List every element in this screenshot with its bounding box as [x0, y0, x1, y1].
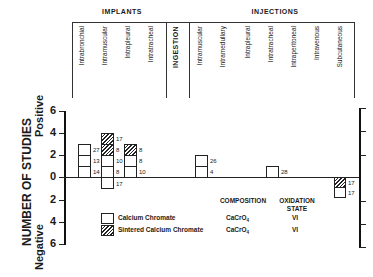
legend-oxidation-sintered-calcium-chromate: VI	[292, 226, 298, 233]
bar-cell-intramuscular-negative	[101, 177, 114, 189]
y-tick	[59, 244, 64, 245]
bar-cell-subcutaneous	[334, 187, 346, 198]
label-implant-intrabronchial: Intrabronchial	[78, 26, 88, 96]
y-tick-label: 6	[42, 104, 56, 116]
y-tick	[59, 155, 64, 156]
label-injection-intrapleural: Intrapleural	[244, 26, 254, 96]
y-tick	[59, 133, 64, 134]
y-axis-right	[359, 108, 361, 248]
bar-ref-label: 8	[116, 169, 119, 175]
legend-swatch-open	[101, 213, 114, 224]
y-tick-right	[360, 201, 366, 202]
bar-ref-label: 14	[93, 169, 100, 175]
bar-ref-label: 28	[281, 169, 288, 175]
bar-ref-label: 17	[116, 136, 123, 142]
bar-ref-label: 4	[210, 169, 213, 175]
legend-swatch-hatched	[101, 225, 114, 236]
bar-cell-injection-intratracheal	[266, 166, 279, 178]
label-injection-intratracheal: Intratracheal	[267, 26, 277, 96]
bar-cell-intrapleural	[124, 166, 137, 178]
legend-head-state: STATE	[273, 205, 321, 213]
label-injection-intravenous: Intravenous	[313, 26, 323, 96]
y-tick-label: 2	[42, 193, 56, 205]
label-implant-intratracheal: Intratracheal	[147, 26, 157, 96]
legend-oxidation-calcium-chromate: VI	[292, 214, 298, 221]
y-axis-left	[64, 111, 66, 245]
label-implant-intrapleural: Intrapleural	[124, 26, 134, 96]
bar-ref-label: 17	[348, 190, 355, 196]
group-title-implants: IMPLANTS	[92, 8, 152, 15]
bar-ref-label: 8	[139, 158, 142, 164]
y-axis-title: NUMBER OF STUDIES	[20, 118, 34, 246]
y-tick-right	[360, 155, 366, 156]
header-right-line	[354, 22, 355, 98]
group-title-injections: INJECTIONS	[240, 8, 310, 15]
label-injection-subcutaneous: Subcutaneous	[336, 26, 346, 96]
bar-ref-label: 13	[93, 158, 100, 164]
bar-cell-intrabronchial	[78, 166, 91, 178]
bar-ref-label: 27	[93, 147, 100, 153]
y-tick	[59, 222, 64, 223]
bar-ref-label: 8	[139, 147, 142, 153]
header-divider-implants	[166, 22, 167, 98]
legend-composition-calcium-chromate: CaCrO4	[226, 214, 249, 223]
y-tick-label: 6	[42, 237, 56, 249]
bar-ref-label: 26	[210, 158, 217, 164]
legend-head-composition: COMPOSITION	[213, 197, 273, 205]
legend-label-sintered-calcium-chromate: Sintered Calcium Chromate	[118, 226, 203, 233]
label-injection-intramuscular: Intramuscular	[196, 26, 206, 96]
legend-label-calcium-chromate: Calcium Chromate	[118, 214, 175, 221]
y-tick-label: 0	[42, 170, 56, 182]
bar-ref-label: 10	[116, 158, 123, 164]
bar-ref-label: 8	[116, 147, 119, 153]
bar-ref-label: 17	[116, 181, 123, 187]
legend-composition-sintered-calcium-chromate: CaCrO4	[226, 226, 249, 235]
label-ingestion: INGESTION	[172, 26, 182, 96]
bar-ref-label: 17	[348, 180, 355, 186]
y-tick-right	[360, 224, 366, 225]
label-injection-intraperitoneal: Intraperitoneal	[290, 26, 300, 96]
y-tick	[59, 111, 64, 112]
label-implant-intramuscular: Intramuscular	[101, 26, 111, 96]
label-injection-intramedullary: Intramedullary	[219, 26, 229, 96]
y-tick	[59, 200, 64, 201]
y-tick-label: 4	[42, 215, 56, 227]
y-tick-right	[360, 247, 366, 248]
y-tick-label: 4	[42, 126, 56, 138]
header-top-line	[72, 22, 355, 23]
y-tick-label: 2	[42, 148, 56, 160]
y-tick-right	[360, 108, 366, 109]
y-tick-right	[360, 131, 366, 132]
bar-cell-injection-intramuscular	[195, 166, 208, 178]
legend-head-oxidation: OXIDATION	[273, 197, 321, 205]
header-divider-ingestion	[189, 22, 190, 98]
header-left-line	[72, 22, 73, 98]
bar-ref-label: 10	[139, 169, 146, 175]
